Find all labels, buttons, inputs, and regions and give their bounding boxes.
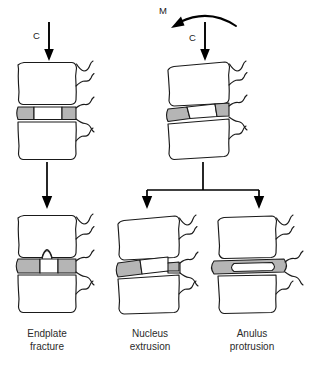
nucleus-pulposus-wedged xyxy=(187,104,217,119)
compression-label-left: C xyxy=(33,30,40,41)
posterior-process-upper-tilted xyxy=(230,61,247,71)
ne-facet-process-upper xyxy=(179,227,197,240)
ef-anulus-anterior xyxy=(16,259,40,273)
moment-label: M xyxy=(159,5,167,16)
flow-arrow-to-endplate-fracture xyxy=(42,162,52,209)
compression-arrow-right xyxy=(200,22,210,61)
vertebra-body-upper xyxy=(18,63,77,105)
compression-label-right: C xyxy=(189,32,196,43)
ap-nucleus-flattened xyxy=(232,263,275,272)
anulus-posterior xyxy=(62,107,76,120)
vertebra-body-upper-tilted xyxy=(168,62,230,106)
spinal-injury-diagram: C xyxy=(0,0,318,365)
posterior-process-lower xyxy=(76,128,93,141)
vertebra-body-lower-right xyxy=(168,119,229,160)
facet-process-upper xyxy=(76,74,94,87)
posterior-process-upper xyxy=(77,61,94,71)
panel-compression-plus-moment: M C xyxy=(142,5,264,209)
ap-vertebra-body-upper xyxy=(218,216,277,259)
panel-endplate-fracture: Endplate fracture xyxy=(16,214,94,352)
ne-vertebra-body-upper xyxy=(118,216,180,260)
vertebra-body-lower xyxy=(18,122,76,160)
ap-vertebra-body-lower xyxy=(218,275,276,314)
anulus-anterior-wedged xyxy=(167,107,191,122)
posterior-process-lower-right xyxy=(229,126,246,139)
caption-endplate-fracture-line2: fracture xyxy=(30,341,64,352)
moment-arrow xyxy=(171,16,236,28)
ne-anulus-anterior xyxy=(116,260,142,277)
ap-facet-process-upper xyxy=(276,227,294,240)
ap-facet-process-middle xyxy=(285,251,303,262)
ef-posterior-process-lower xyxy=(76,281,93,294)
caption-endplate-fracture-line1: Endplate xyxy=(27,328,67,339)
panel-anulus-protrusion: Anulus protrusion xyxy=(212,215,304,352)
caption-anulus-protrusion-line1: Anulus xyxy=(237,328,268,339)
facet-process-middle-tilted xyxy=(229,95,247,106)
diagram-canvas: C xyxy=(0,0,318,365)
ef-posterior-process-upper xyxy=(77,214,94,224)
ne-vertebra-body-lower xyxy=(118,275,179,314)
compression-arrow-left xyxy=(44,22,54,61)
ef-anulus-posterior xyxy=(58,259,76,273)
ne-posterior-process-upper xyxy=(180,215,197,225)
ef-vertebra-body-lower xyxy=(18,275,76,313)
ne-posterior-process-lower xyxy=(179,281,196,294)
ap-intervertebral-disc-protruded xyxy=(212,259,287,274)
ap-facet-process-lower xyxy=(285,272,303,285)
ne-anulus-defect xyxy=(168,262,179,271)
caption-nucleus-extrusion-line2: extrusion xyxy=(130,341,171,352)
anulus-posterior-wedged xyxy=(215,103,229,117)
facet-process-upper-tilted xyxy=(229,73,247,86)
ne-facet-process-middle xyxy=(180,252,198,263)
intervertebral-disc-normal xyxy=(17,107,76,120)
ap-posterior-process-lower xyxy=(276,281,293,294)
ne-facet-process-lower xyxy=(180,273,198,286)
ap-posterior-process-upper xyxy=(277,215,294,225)
panel-nucleus-extrusion: Nucleus extrusion xyxy=(116,215,198,352)
caption-anulus-protrusion-line2: protrusion xyxy=(230,341,274,352)
ef-facet-process-upper xyxy=(76,227,94,240)
flow-arrow-branch xyxy=(142,162,264,209)
ef-facet-process-middle xyxy=(76,250,94,261)
caption-nucleus-extrusion-line1: Nucleus xyxy=(132,328,168,339)
nucleus-pulposus xyxy=(34,107,62,120)
facet-process-middle xyxy=(76,97,94,108)
anulus-anterior xyxy=(17,107,34,120)
panel-compression-only: C xyxy=(17,22,94,209)
